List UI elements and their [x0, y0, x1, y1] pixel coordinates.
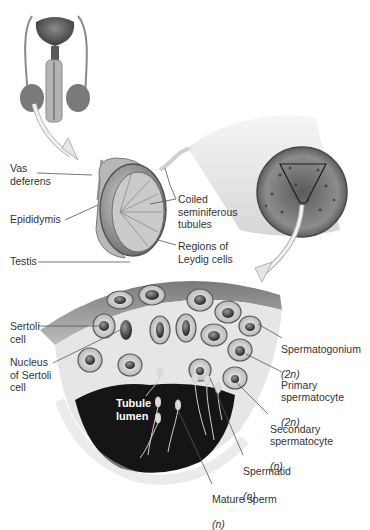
spermatid-text: Spermatid [243, 465, 291, 477]
primary-spermatocyte-text: Primary spermatocyte [281, 379, 344, 404]
secondary-spermatocyte-text: Secondary spermatocyte [270, 423, 333, 448]
mature-sperm-text: Mature sperm [212, 493, 277, 505]
label-mature-sperm: Mature sperm (n) [212, 480, 277, 530]
label-sertoli-cell: Sertoli cell [10, 320, 40, 345]
label-vas-deferens: Vas deferens [10, 162, 51, 187]
label-tubule-lumen: Tubule lumen [116, 397, 151, 423]
mature-sperm-ploidy: (n) [212, 518, 225, 530]
label-epididymis: Epididymis [10, 213, 61, 226]
reproductive-system-overview [20, 16, 90, 160]
label-sertoli-nucleus: Nucleus of Sertoli cell [10, 356, 51, 394]
label-testis: Testis [10, 255, 37, 268]
seminiferous-tubule-detail [40, 281, 282, 480]
label-leydig-cells: Regions of Leydig cells [178, 240, 233, 265]
label-coiled-seminiferous-tubules: Coiled seminiferous tubules [178, 193, 238, 231]
spermatogonium-text: Spermatogonium [281, 343, 361, 355]
